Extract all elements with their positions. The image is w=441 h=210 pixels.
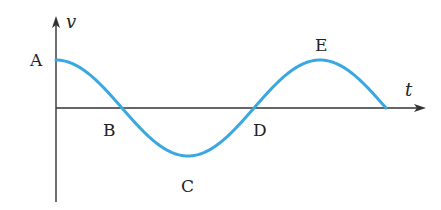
point-label-c: C — [181, 176, 194, 196]
velocity-time-diagram: v t A B C D E — [0, 0, 441, 210]
point-label-b: B — [103, 120, 116, 140]
point-label-d: D — [253, 120, 267, 140]
point-label-a: A — [29, 50, 43, 70]
point-label-e: E — [315, 35, 327, 55]
y-axis-label: v — [66, 11, 76, 32]
x-axis-label: t — [405, 79, 413, 100]
